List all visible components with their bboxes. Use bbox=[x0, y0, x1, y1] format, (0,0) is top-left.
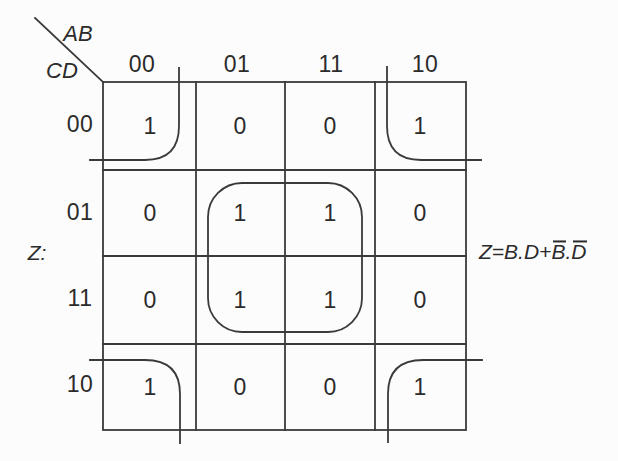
cell-value-r2c1: 1 bbox=[234, 289, 247, 312]
cell-value-r3c2: 0 bbox=[324, 376, 337, 399]
row-label-10: 10 bbox=[67, 373, 94, 396]
col-var-label: AB bbox=[63, 23, 92, 45]
cell-value-r3c3: 1 bbox=[414, 376, 427, 399]
equation: Z=B.D+B.D bbox=[479, 240, 586, 264]
equation-head: Z=B.D+ bbox=[479, 240, 551, 263]
equation-bar-b: B bbox=[551, 240, 565, 264]
cell-value-r2c2: 1 bbox=[324, 289, 337, 312]
cell-value-r3c1: 0 bbox=[234, 376, 247, 399]
cell-value-r2c3: 0 bbox=[414, 289, 427, 312]
cell-value-r2c0: 0 bbox=[144, 289, 157, 312]
row-var-label: CD bbox=[46, 60, 78, 82]
cell-value-r3c0: 1 bbox=[144, 376, 157, 399]
row-label-00: 00 bbox=[67, 113, 94, 136]
row-label-11: 11 bbox=[68, 287, 93, 310]
equation-bar-d: D bbox=[571, 240, 586, 264]
cell-value-r1c3: 0 bbox=[414, 202, 427, 225]
cell-value-r0c3: 1 bbox=[414, 115, 427, 138]
row-label-01: 01 bbox=[67, 201, 94, 224]
cell-value-r1c1: 1 bbox=[234, 202, 247, 225]
col-label-11: 11 bbox=[319, 53, 344, 76]
karnaugh-map-diagram: AB CD Z: 00 01 11 10 00 01 11 10 1 0 0 1… bbox=[0, 0, 618, 461]
cell-value-r1c2: 1 bbox=[324, 202, 337, 225]
cell-value-r1c0: 0 bbox=[144, 202, 157, 225]
cell-value-r0c1: 0 bbox=[234, 115, 247, 138]
output-label: Z: bbox=[28, 242, 47, 263]
col-label-01: 01 bbox=[224, 53, 251, 76]
col-label-00: 00 bbox=[129, 53, 156, 76]
cell-value-r0c0: 1 bbox=[144, 115, 157, 138]
cell-value-r0c2: 0 bbox=[324, 115, 337, 138]
col-label-10: 10 bbox=[412, 53, 439, 76]
